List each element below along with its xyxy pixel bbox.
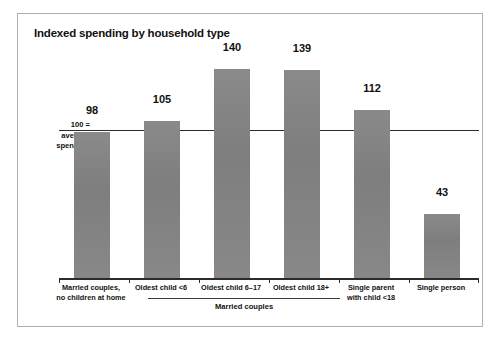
bar-value-label: 98 <box>59 104 125 116</box>
chart-title: Indexed spending by household type <box>34 27 230 39</box>
bar[interactable] <box>214 69 250 278</box>
bar-value-label: 105 <box>129 93 195 105</box>
group-bracket-label: Married couples <box>148 302 340 311</box>
bar-value-label: 112 <box>339 82 405 94</box>
reference-line-annotation-line-1: 100 = <box>42 120 90 131</box>
bar[interactable] <box>284 70 320 278</box>
group-bracket-line <box>148 298 340 299</box>
category-label-line-2: with child <18 <box>328 293 414 303</box>
bar-value-label: 139 <box>269 42 335 54</box>
reference-line-100 <box>59 130 479 131</box>
bar-value-label: 140 <box>199 41 265 53</box>
bar[interactable] <box>74 132 110 278</box>
plot-area: 100 = average spending 98 105 140 139 11… <box>42 41 479 287</box>
category-label-line-1: Single person <box>398 283 484 293</box>
bar-value-label: 43 <box>409 186 475 198</box>
bar[interactable] <box>424 214 460 278</box>
bar[interactable] <box>354 110 390 278</box>
category-label-line-2: no children at home <box>48 293 134 303</box>
chart-figure: Indexed spending by household type 100 =… <box>17 13 483 327</box>
category-label-single-person: Single person <box>398 283 484 293</box>
bar[interactable] <box>144 121 180 278</box>
